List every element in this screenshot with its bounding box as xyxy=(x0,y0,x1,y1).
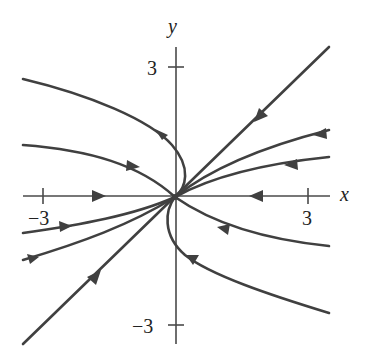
arrow-right-icon xyxy=(59,221,72,232)
y-axis-label: y xyxy=(166,15,177,38)
x-tick-label-neg3: −3 xyxy=(28,207,49,229)
x-tick-label-3: 3 xyxy=(302,207,312,229)
trajectory-upper-right-2 xyxy=(175,157,329,197)
phase-portrait: y x 3 −3 −3 3 xyxy=(0,0,366,361)
arrow-down-left-icon xyxy=(254,108,268,122)
equilibrium-point xyxy=(172,194,178,200)
arrow-right-icon xyxy=(92,190,106,202)
trajectory-upper-left-inner xyxy=(23,145,175,197)
arrow-left-icon xyxy=(217,224,230,235)
y-tick-label-3: 3 xyxy=(147,57,157,79)
arrow-left-icon xyxy=(249,190,263,202)
arrow-up-right-icon xyxy=(87,270,101,285)
y-tick-label-neg3: −3 xyxy=(132,315,153,337)
x-axis-label: x xyxy=(339,183,349,205)
